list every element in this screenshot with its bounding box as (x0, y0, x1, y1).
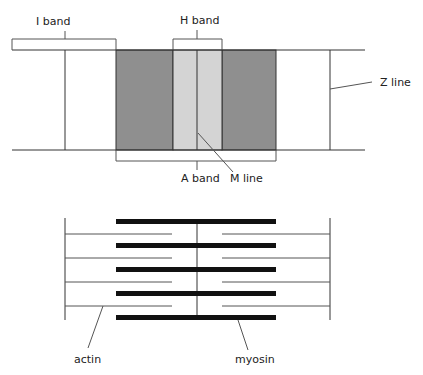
sarcomere-diagram: I band H band A band M line Z line (0, 0, 423, 375)
myosin-filament (116, 219, 276, 224)
filament-diagram: actin myosin (65, 218, 330, 366)
myosin-label: myosin (235, 353, 275, 366)
a-band-right-dark-region (222, 50, 276, 150)
myosin-leader (238, 320, 248, 350)
myosin-filament (116, 243, 276, 248)
m-line-label: M line (230, 172, 263, 185)
i-band-bracket (12, 39, 116, 50)
z-line-leader (330, 82, 372, 89)
a-band-bracket (116, 150, 276, 161)
actin-leader (88, 306, 103, 348)
h-band-bracket (173, 39, 222, 50)
i-band-label: I band (36, 15, 70, 28)
myosin-filament (116, 267, 276, 272)
sarcomere-band-diagram: I band H band A band M line Z line (12, 14, 411, 185)
myosin-filament (116, 291, 276, 296)
z-line-label: Z line (380, 76, 411, 89)
h-band-label: H band (180, 14, 219, 27)
a-band-left-dark-region (116, 50, 173, 150)
myosin-filament (116, 315, 276, 320)
actin-label: actin (74, 353, 101, 366)
a-band-label: A band (181, 172, 220, 185)
